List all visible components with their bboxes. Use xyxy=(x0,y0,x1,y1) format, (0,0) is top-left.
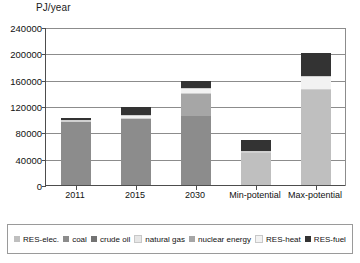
legend-label: nuclear energy xyxy=(198,235,251,244)
legend-swatch xyxy=(134,235,142,243)
stacked-bar[interactable] xyxy=(241,27,271,185)
x-axis-label: Min-potential xyxy=(229,190,281,200)
y-axis-label: 40000 xyxy=(0,154,42,165)
bar-segment xyxy=(241,153,271,185)
bar-segment xyxy=(121,115,151,119)
bar-segment xyxy=(301,90,331,185)
bar-segment xyxy=(181,94,211,116)
legend-label: crude oil xyxy=(100,235,130,244)
y-axis-label: 80000 xyxy=(0,128,42,139)
bar-segment xyxy=(301,53,331,75)
legend-label: coal xyxy=(72,235,87,244)
bar-segment xyxy=(61,122,91,185)
stacked-bar[interactable] xyxy=(121,27,151,185)
x-axis-label: 2015 xyxy=(125,190,145,200)
legend-label: natural gas xyxy=(145,235,185,244)
legend-label: RES-heat xyxy=(266,235,301,244)
plot-area xyxy=(45,28,345,186)
y-axis-title: PJ/year xyxy=(36,2,71,13)
bar-segment xyxy=(241,151,271,153)
bar-segment xyxy=(181,81,211,88)
legend-swatch xyxy=(91,236,97,242)
stacked-bar[interactable] xyxy=(181,27,211,185)
y-axis-tick xyxy=(42,160,46,161)
legend-swatch xyxy=(255,235,263,243)
legend-item[interactable]: crude oil xyxy=(91,235,130,244)
legend-swatch xyxy=(189,236,195,242)
bar-segment xyxy=(241,140,271,151)
legend-label: RES-elec. xyxy=(23,235,59,244)
legend-label: RES-fuel xyxy=(314,235,346,244)
chart-legend: RES-elec.coalcrude oilnatural gasnuclear… xyxy=(7,224,353,254)
legend-item[interactable]: natural gas xyxy=(134,235,185,244)
bar-segment xyxy=(181,116,211,185)
legend-item[interactable]: RES-fuel xyxy=(305,235,346,244)
bar-segment xyxy=(301,76,331,90)
y-axis-label: 240000 xyxy=(0,23,42,34)
legend-swatch xyxy=(305,236,311,242)
legend-item[interactable]: coal xyxy=(63,235,87,244)
x-axis-label: 2030 xyxy=(185,190,205,200)
legend-item[interactable]: RES-elec. xyxy=(14,235,59,244)
legend-swatch xyxy=(14,236,20,242)
legend-item[interactable]: nuclear energy xyxy=(189,235,251,244)
y-axis-tick xyxy=(42,54,46,55)
legend-swatch xyxy=(63,236,69,242)
y-axis-tick xyxy=(42,186,46,187)
bar-segment xyxy=(121,107,151,115)
stacked-bar[interactable] xyxy=(61,27,91,185)
bar-segment xyxy=(61,120,91,123)
stacked-bar[interactable] xyxy=(301,27,331,185)
y-axis-tick xyxy=(42,28,46,29)
y-axis-tick xyxy=(42,133,46,134)
x-axis-label: Max-potential xyxy=(288,190,342,200)
bar-segment xyxy=(181,88,211,94)
legend-item[interactable]: RES-heat xyxy=(255,235,301,244)
y-axis-tick xyxy=(42,107,46,108)
y-axis-tick xyxy=(42,81,46,82)
y-axis-label: 0 xyxy=(0,181,42,192)
bar-segment xyxy=(121,119,151,185)
y-axis-label: 200000 xyxy=(0,49,42,60)
y-axis-label: 160000 xyxy=(0,75,42,86)
chart-container: PJ/year 04000080000120000160000200000240… xyxy=(0,0,360,263)
x-axis-label: 2011 xyxy=(65,190,84,200)
bar-segment xyxy=(61,118,91,120)
y-axis-label: 120000 xyxy=(0,102,42,113)
